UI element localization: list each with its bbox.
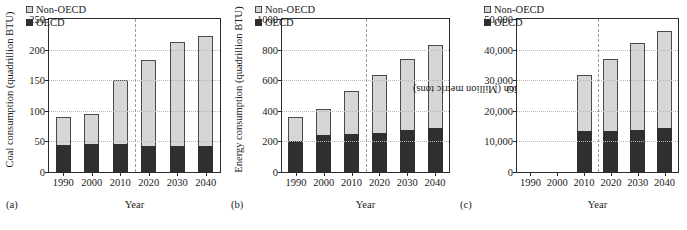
legend-swatch-oecd-icon — [255, 19, 262, 26]
bar-segment-oecd — [372, 133, 387, 172]
bar-segment-non-oecd — [113, 80, 128, 144]
stacked-bar[interactable] — [372, 75, 387, 172]
stacked-bar[interactable] — [56, 117, 71, 172]
x-tick: 2000 — [544, 172, 571, 188]
bar-segment-non-oecd — [84, 114, 99, 144]
x-tick-mark — [324, 172, 325, 176]
y-tick-mark — [45, 141, 49, 142]
y-tick-label: 30,000 — [484, 75, 513, 86]
x-tick-mark — [584, 172, 585, 176]
x-tick-mark — [665, 172, 666, 176]
x-tick-mark — [435, 172, 436, 176]
stacked-bar[interactable] — [657, 31, 672, 172]
stacked-bar[interactable] — [113, 80, 128, 172]
y-tick-mark — [513, 111, 517, 112]
legend-label-non-oecd: Non-OECD — [36, 4, 86, 15]
x-tick: 2040 — [192, 172, 220, 188]
y-tick-label: 150 — [29, 75, 45, 86]
stacked-bar[interactable] — [170, 42, 185, 172]
legend-swatch-non-oecd-icon — [255, 6, 262, 13]
y-tick-mark — [513, 80, 517, 81]
x-tick: 2030 — [163, 172, 191, 188]
x-tick-mark — [92, 172, 93, 176]
x-tick-label: 1990 — [53, 177, 74, 188]
bar-segment-non-oecd — [288, 117, 303, 141]
x-tick-label: 2000 — [547, 177, 568, 188]
stacked-bar[interactable] — [577, 75, 592, 172]
stacked-bar[interactable] — [428, 45, 443, 172]
x-tick-mark — [296, 172, 297, 176]
panel-a-y-axis-label: Coal consumption (quadrillion BTU) — [4, 11, 15, 167]
x-tick-label: 2020 — [138, 177, 159, 188]
y-tick-label: 200 — [262, 136, 278, 147]
panel-c: CO2 emission (Million metric tons) 19902… — [458, 0, 687, 230]
x-tick: 2020 — [366, 172, 394, 188]
stacked-bar[interactable] — [400, 59, 415, 172]
x-tick: 2000 — [78, 172, 106, 188]
y-tick-label: 400 — [262, 105, 278, 116]
bar-segment-oecd — [288, 141, 303, 172]
x-tick-label: 2020 — [600, 177, 621, 188]
legend-item-non-oecd: Non-OECD — [255, 4, 315, 15]
bar-slot — [624, 19, 651, 172]
stacked-bar[interactable] — [344, 91, 359, 172]
legend-label-oecd: OECD — [36, 17, 65, 28]
panel-a-y-axis-title: Coal consumption (quadrillion BTU) — [0, 0, 18, 178]
bar-segment-oecd — [630, 130, 645, 172]
legend-label-non-oecd: Non-OECD — [265, 4, 315, 15]
y-tick-label: 200 — [29, 44, 45, 55]
bar-segment-oecd — [56, 145, 71, 172]
stacked-bar[interactable] — [630, 43, 645, 172]
x-tick-label: 2030 — [167, 177, 188, 188]
x-tick: 2020 — [135, 172, 163, 188]
bar-segment-oecd — [657, 128, 672, 172]
legend-item-oecd: OECD — [255, 17, 315, 28]
x-tick-mark — [530, 172, 531, 176]
y-tick-mark — [45, 111, 49, 112]
x-tick-mark — [149, 172, 150, 176]
panel-c-x-axis-title: Year — [458, 199, 687, 210]
projection-divider — [366, 19, 367, 172]
x-tick: 1990 — [49, 172, 77, 188]
x-tick: 2040 — [651, 172, 678, 188]
panel-c-y-axis-title: CO2 emission (Million metric tons) — [458, 0, 476, 178]
bar-slot — [393, 19, 421, 172]
x-tick-label: 2030 — [397, 177, 418, 188]
y-tick-label: 50 — [35, 136, 46, 147]
legend-item-oecd: OECD — [484, 17, 544, 28]
x-tick-mark — [63, 172, 64, 176]
x-tick-mark — [379, 172, 380, 176]
x-tick-mark — [120, 172, 121, 176]
legend-swatch-non-oecd-icon — [26, 6, 33, 13]
x-tick: 2010 — [571, 172, 598, 188]
x-tick: 2040 — [421, 172, 449, 188]
bar-slot — [135, 19, 163, 172]
x-tick-label: 1990 — [285, 177, 306, 188]
panel-a-x-ticks: 199020002010202020302040 — [49, 172, 220, 188]
panel-a: Coal consumption (quadrillion BTU) 19902… — [0, 0, 229, 230]
x-tick-label: 2030 — [627, 177, 648, 188]
bar-segment-oecd — [198, 146, 213, 172]
stacked-bar[interactable] — [84, 114, 99, 172]
y-tick-mark — [513, 50, 517, 51]
y-tick-mark — [513, 172, 517, 173]
stacked-bar[interactable] — [288, 117, 303, 172]
bar-segment-non-oecd — [170, 42, 185, 146]
panel-c-x-ticks: 199020002010202020302040 — [517, 172, 678, 188]
y-tick-label: 10,000 — [484, 136, 513, 147]
bar-slot — [651, 19, 678, 172]
panel-b-x-ticks: 199020002010202020302040 — [282, 172, 449, 188]
stacked-bar-figure: Coal consumption (quadrillion BTU) 19902… — [0, 0, 687, 230]
panel-b-y-axis-label: Energy consumption (quadrillion BTU) — [233, 6, 244, 172]
bar-slot — [517, 19, 544, 172]
bar-segment-oecd — [170, 146, 185, 172]
bar-slot — [78, 19, 106, 172]
stacked-bar[interactable] — [141, 60, 156, 172]
panel-c-plot-area: 199020002010202020302040 010,00020,00030… — [516, 18, 679, 173]
stacked-bar[interactable] — [198, 36, 213, 172]
stacked-bar[interactable] — [603, 59, 618, 172]
bar-slot — [338, 19, 366, 172]
panel-b-letter: (b) — [231, 199, 243, 210]
bar-segment-non-oecd — [141, 60, 156, 146]
x-tick-mark — [557, 172, 558, 176]
